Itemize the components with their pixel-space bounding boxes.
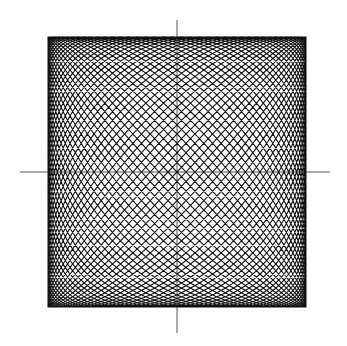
lissajous-figure [0, 0, 347, 346]
